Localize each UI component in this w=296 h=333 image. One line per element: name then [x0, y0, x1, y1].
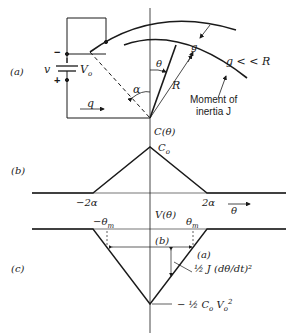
inertia-label-line2: inertia J: [196, 107, 231, 117]
battery-minus: −: [54, 47, 60, 58]
trajectory-a-label: (a): [197, 250, 211, 260]
panel-a-label: (a): [10, 67, 24, 77]
diagram-figure: (a) (b) (c) − + v Vo q α θ R g g < < R M…: [0, 0, 296, 333]
diagram-lines: [0, 0, 296, 333]
circuit-top-wire: [67, 54, 106, 63]
Co-peak-label: Co: [158, 143, 170, 156]
panel-c-label: (c): [11, 264, 24, 274]
alpha-label: α: [133, 84, 140, 95]
kinetic-energy-label: ½ J (dθ/dt)²: [194, 264, 252, 274]
2alpha-label: 2α: [202, 198, 215, 208]
voltage-v-label: v: [44, 64, 50, 75]
C-theta-axis-label: C(θ): [154, 127, 175, 137]
theta-label: θ: [156, 59, 162, 69]
min-energy-label: − ½ Co Vo2: [177, 299, 232, 313]
minus-theta-m-label: −θm: [93, 217, 114, 230]
voltage-Vo-label: Vo: [80, 64, 92, 78]
trajectory-b-label: (b): [155, 236, 169, 246]
theta-m-label: θm: [186, 217, 199, 230]
radius-R-label: R: [172, 80, 180, 91]
panel-b-label: (b): [11, 166, 25, 176]
gap-condition-label: g < < R: [226, 56, 270, 67]
battery-plus: +: [54, 75, 60, 86]
minus-2alpha-label: −2α: [76, 198, 98, 208]
V-theta-axis-label: V(θ): [155, 210, 176, 220]
gap-g-label: g: [191, 42, 197, 52]
theta-axis-label: θ: [231, 206, 237, 216]
inertia-label-line1: Moment of: [190, 95, 237, 105]
charge-q-label: q: [87, 98, 94, 109]
